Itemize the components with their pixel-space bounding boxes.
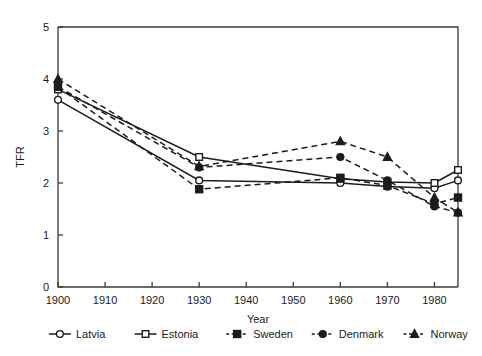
- x-tick-label: 1920: [140, 294, 164, 306]
- marker-open-square: [431, 180, 438, 187]
- y-tick-label: 2: [43, 177, 49, 189]
- y-tick-label: 5: [43, 21, 49, 33]
- axis-frame-lb: [58, 27, 458, 287]
- y-axis-title: TFR: [14, 146, 26, 167]
- marker-open-square: [455, 167, 462, 174]
- marker-filled-circle: [337, 154, 344, 161]
- legend-item-estonia[interactable]: Estonia: [135, 328, 200, 340]
- series-estonia: [55, 86, 462, 186]
- x-tick-label: 1930: [187, 294, 211, 306]
- marker-open-circle: [196, 177, 203, 184]
- marker-open-circle: [55, 96, 62, 103]
- marker-filled-triangle: [336, 137, 344, 145]
- marker-open-circle: [57, 331, 64, 338]
- legend-label-norway: Norway: [431, 328, 469, 340]
- series-norway: [54, 75, 462, 216]
- series-line-norway: [58, 79, 458, 213]
- chart-canvas: 0123451900191019201930194019501960197019…: [0, 0, 482, 356]
- marker-filled-square: [455, 194, 462, 201]
- marker-filled-square: [337, 174, 344, 181]
- legend-item-sweden[interactable]: Sweden: [226, 328, 293, 340]
- legend-item-norway[interactable]: Norway: [404, 328, 469, 340]
- axis-frame-tr: [58, 27, 458, 287]
- marker-filled-circle: [384, 177, 391, 184]
- marker-filled-circle: [319, 331, 326, 338]
- marker-open-square: [196, 154, 203, 161]
- y-tick-label: 3: [43, 125, 49, 137]
- tfr-line-chart: 0123451900191019201930194019501960197019…: [0, 0, 482, 356]
- series-line-latvia: [58, 100, 458, 188]
- legend-item-latvia[interactable]: Latvia: [49, 328, 106, 340]
- x-tick-label: 1970: [375, 294, 399, 306]
- legend-item-denmark[interactable]: Denmark: [312, 328, 384, 340]
- marker-filled-circle: [55, 83, 62, 90]
- x-axis-title: Year: [247, 313, 270, 325]
- marker-filled-triangle: [430, 193, 438, 201]
- y-tick-label: 4: [43, 73, 49, 85]
- marker-filled-square: [196, 186, 203, 193]
- marker-filled-circle: [431, 203, 438, 210]
- legend-label-latvia: Latvia: [76, 328, 106, 340]
- marker-open-circle: [455, 177, 462, 184]
- x-tick-label: 1980: [422, 294, 446, 306]
- legend-label-sweden: Sweden: [253, 328, 293, 340]
- legend-label-estonia: Estonia: [162, 328, 200, 340]
- x-tick-label: 1940: [234, 294, 258, 306]
- series-denmark: [55, 83, 462, 216]
- y-tick-label: 0: [43, 281, 49, 293]
- x-tick-label: 1960: [328, 294, 352, 306]
- series-line-denmark: [58, 87, 458, 213]
- marker-open-square: [142, 331, 149, 338]
- series-sweden: [55, 83, 462, 207]
- y-tick-label: 1: [43, 229, 49, 241]
- series-latvia: [55, 96, 462, 191]
- x-tick-label: 1910: [93, 294, 117, 306]
- legend-label-denmark: Denmark: [339, 328, 384, 340]
- x-tick-label: 1950: [281, 294, 305, 306]
- series-line-estonia: [58, 89, 458, 183]
- x-tick-label: 1900: [46, 294, 70, 306]
- marker-filled-square: [234, 331, 241, 338]
- marker-filled-triangle: [383, 153, 391, 161]
